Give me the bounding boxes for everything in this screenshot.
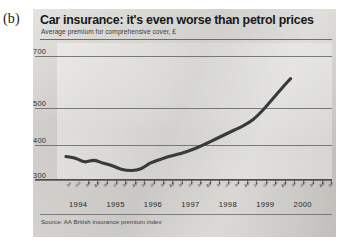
x-month-label: Oct	[224, 180, 232, 188]
x-month-label: Apr	[318, 180, 326, 188]
x-month-label: Oct	[187, 180, 195, 188]
x-year-label-1994: 1994	[69, 200, 87, 209]
x-month-label: Jul	[177, 181, 184, 188]
x-month-label: Jan	[308, 180, 316, 188]
x-month-label: Jan	[84, 180, 92, 188]
x-year-label-1998: 1998	[219, 200, 237, 209]
x-axis-month-labels: JulOctJanAprJulOctJanAprJulOctJanAprJulO…	[35, 182, 332, 202]
x-month-label: Jul	[65, 181, 72, 188]
y-tick-label-500: 500	[33, 99, 46, 108]
x-month-label: Oct	[149, 180, 157, 188]
y-tick-label-400: 400	[33, 136, 46, 145]
x-year-label-1999: 1999	[256, 200, 274, 209]
x-month-label: Jan	[271, 180, 279, 188]
x-axis-year-labels: 1994199519961997199819992000	[35, 200, 332, 214]
x-month-label: Jul	[215, 181, 222, 188]
chart-subtitle: Average premium for comprehensive cover,…	[41, 28, 321, 35]
x-month-label: Apr	[243, 180, 251, 188]
x-month-label: Oct	[112, 180, 120, 188]
x-year-label-1995: 1995	[106, 200, 124, 209]
header-divider	[40, 39, 332, 40]
x-month-label: Jan	[196, 180, 204, 188]
x-month-label: Apr	[168, 180, 176, 188]
x-month-label: Jul	[102, 181, 109, 188]
x-month-label: Apr	[131, 180, 139, 188]
x-month-label: Apr	[280, 180, 288, 188]
x-month-label: Jan	[233, 180, 241, 188]
source-note: Source: AA British insurance premium ind…	[41, 218, 162, 225]
x-month-label: Jul	[252, 181, 259, 188]
source-divider	[40, 214, 332, 215]
x-month-label: Jul	[290, 181, 297, 188]
x-month-label: Jul	[327, 181, 334, 188]
x-month-label: Apr	[205, 180, 213, 188]
x-month-label: Jan	[159, 180, 167, 188]
figure-label: (b)	[3, 11, 20, 27]
x-month-label: Oct	[74, 180, 82, 188]
chart-panel: Car insurance: it's even worse than petr…	[33, 9, 336, 237]
plot-area: 300400500700 JulOctJanAprJulOctJanAprJul…	[57, 43, 332, 180]
x-month-label: Oct	[262, 180, 270, 188]
y-tick-label-700: 700	[33, 47, 46, 56]
x-year-label-1997: 1997	[181, 200, 199, 209]
x-month-label: Jul	[140, 181, 147, 188]
x-month-label: Jan	[121, 180, 129, 188]
x-year-label-2000: 2000	[294, 200, 312, 209]
premium-line-path	[66, 79, 291, 171]
x-year-label-1996: 1996	[144, 200, 162, 209]
x-month-label: Oct	[299, 180, 307, 188]
data-series-line	[57, 43, 332, 180]
chart-title: Car insurance: it's even worse than petr…	[40, 13, 332, 27]
x-month-label: Apr	[93, 180, 101, 188]
